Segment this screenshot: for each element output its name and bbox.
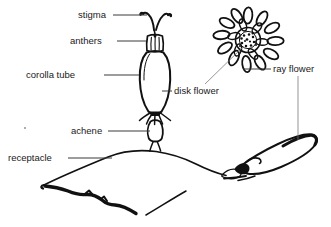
label-stigma: stigma — [78, 9, 107, 20]
label-achene: achene — [71, 125, 102, 136]
label-disk-flower: disk flower — [174, 85, 219, 96]
diagram-page: stigma anthers corolla tube disk flower … — [0, 0, 331, 227]
botanical-diagram: stigma anthers corolla tube disk flower … — [0, 0, 331, 227]
stray-speck — [24, 127, 26, 129]
label-ray-flower: ray flower — [273, 63, 314, 74]
disk-center-drawing — [236, 28, 261, 53]
label-corolla-tube: corolla tube — [26, 69, 75, 80]
diagram-background — [0, 0, 331, 227]
label-anthers: anthers — [70, 35, 102, 46]
label-receptacle: receptacle — [8, 152, 52, 163]
